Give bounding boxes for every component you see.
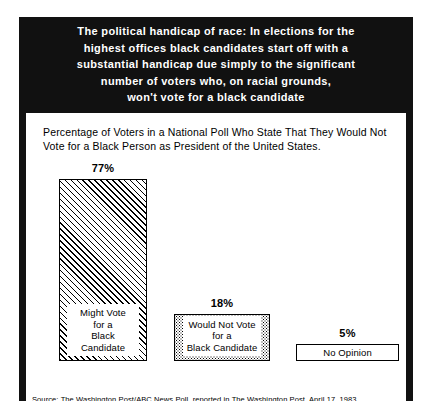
poster-frame: The political handicap of race: In elect… (19, 17, 413, 401)
chart-subtitle: Percentage of Voters in a National Poll … (43, 125, 391, 153)
bar-caption-no-opinion: No Opinion (297, 345, 398, 361)
source-note: Source: The Washington Post/ABC News Pol… (26, 393, 406, 401)
headline-text: The political handicap of race: In elect… (59, 23, 373, 106)
source-publication-2: The Washington Post (232, 395, 305, 401)
source-prefix: Source: (32, 395, 59, 401)
bar-value-label-3: 5% (296, 327, 399, 344)
source-publication-1: The Washington Post (61, 395, 134, 401)
bar-caption-might-vote: Might Vote for a Black Candidate (67, 304, 139, 356)
bar-group-no-opinion: 5% No Opinion (296, 344, 399, 361)
source-middle-text: /ABC News Poll, reported in (134, 395, 230, 401)
headline-banner: The political handicap of race: In elect… (19, 17, 413, 112)
chart-panel: Percentage of Voters in a National Poll … (26, 113, 406, 394)
source-date: , April 17, 1983. (305, 395, 359, 401)
bar-group-would-not-vote: 18% Would Not Vote for a Black Candidate (174, 314, 270, 361)
bar-caption-would-not-vote: Would Not Vote for a Black Candidate (183, 316, 262, 357)
bar-value-label-2: 18% (174, 297, 270, 314)
bar-rect-might-vote: Might Vote for a Black Candidate (59, 179, 147, 361)
bar-group-might-vote: 77% Might Vote for a Black Candidate (59, 179, 147, 361)
bar-rect-would-not-vote: Would Not Vote for a Black Candidate (174, 314, 270, 361)
plot-area: 77% Might Vote for a Black Candidate 18%… (26, 165, 406, 361)
bar-value-label-1: 77% (59, 162, 147, 179)
bar-rect-no-opinion: No Opinion (296, 344, 399, 361)
